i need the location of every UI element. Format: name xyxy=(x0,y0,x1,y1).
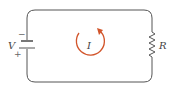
current-label: I xyxy=(86,40,92,51)
circuit-diagram: − + V R I xyxy=(0,0,174,90)
battery-negative-sign: − xyxy=(18,29,26,39)
battery-icon xyxy=(19,41,35,48)
resistor-icon xyxy=(149,32,155,57)
resistor-label: R xyxy=(158,40,167,51)
